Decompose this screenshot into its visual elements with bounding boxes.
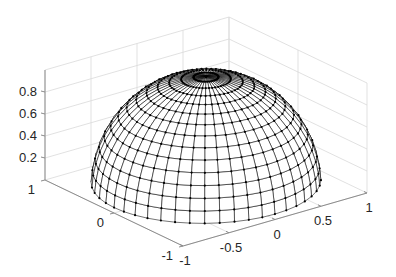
vertex-marker [163,95,165,97]
vertex-marker [169,121,171,123]
vertex-marker [304,200,306,202]
y-tick-label: 0 [97,215,104,230]
vertex-marker [249,92,251,94]
x-tick [318,205,321,207]
vertex-marker [316,156,318,158]
vertex-marker [185,84,187,86]
vertex-marker [293,152,295,154]
surface-cell [205,185,220,198]
vertex-marker [255,166,257,168]
vertex-marker [257,179,259,181]
vertex-marker [210,68,212,70]
vertex-marker [204,135,206,137]
vertex-marker [119,170,121,172]
surface-cell [219,197,234,211]
vertex-marker [232,183,234,185]
vertex-marker [300,119,302,121]
vertex-marker [113,134,115,136]
vertex-marker [214,135,216,137]
surface-cell [205,148,217,161]
vertex-marker [163,77,165,79]
vertex-marker [272,104,274,106]
z-tick [41,113,45,114]
vertex-marker [269,107,271,109]
surface-cell [192,160,205,173]
vertex-marker [134,214,136,216]
vertex-marker [150,100,152,102]
surface-cell [161,196,176,210]
vertex-marker [259,191,261,193]
vertex-marker [165,169,167,171]
vertex-marker [280,172,282,174]
vertex-marker [197,113,199,115]
vertex-marker [118,119,120,121]
hemisphere-3d-plot: 0.20.40.60.8-101-1-0.500.51 [0,0,396,277]
vertex-marker [147,205,149,207]
vertex-marker [156,129,158,131]
vertex-marker [174,133,176,135]
vertex-marker [265,110,267,112]
vertex-marker [219,69,221,71]
vertex-marker [145,86,147,88]
vertex-marker [99,151,101,153]
vertex-marker [224,69,226,71]
surface-cell [190,198,205,211]
vertex-marker [239,120,241,122]
vertex-marker [205,75,207,77]
vertex-marker [320,179,322,181]
surface-cell [193,148,206,161]
vertex-marker [247,76,249,78]
vertex-marker [101,156,103,158]
vertex-marker [222,84,224,86]
vertex-marker [106,145,108,147]
vertex-marker [281,130,283,132]
vertex-marker [297,164,299,166]
vertex-marker [243,96,245,98]
z-tick [41,157,45,158]
vertex-marker [166,97,168,99]
vertex-marker [218,197,220,199]
vertex-marker [234,110,236,112]
vertex-marker [247,94,249,96]
vertex-marker [187,85,189,87]
vertex-marker [219,222,221,224]
vertex-marker [239,98,241,100]
vertex-marker [303,159,305,161]
vertex-marker [157,86,159,88]
vertex-marker [227,92,229,94]
vertex-marker [105,202,107,204]
vertex-marker [94,192,96,194]
vertex-marker [260,113,262,115]
vertex-marker [297,114,299,116]
y-tick [41,180,45,181]
vertex-marker [274,101,276,103]
vertex-marker [204,147,206,149]
vertex-marker [181,146,183,148]
vertex-marker [170,99,172,101]
surface-cell [175,210,190,223]
vertex-marker [126,110,128,112]
vertex-marker [217,86,219,88]
surface-cell [205,104,213,114]
vertex-marker [151,141,153,143]
x-tick-label: -1 [179,253,191,268]
vertex-marker [144,111,146,113]
vertex-marker [196,68,198,70]
vertex-marker [136,121,138,123]
vertex-marker [246,194,248,196]
vertex-marker [257,80,259,82]
vertex-marker [297,132,299,134]
vertex-marker [272,188,274,190]
vertex-marker [213,123,215,125]
vertex-marker [129,146,131,148]
vertex-marker [128,114,130,116]
vertex-marker [260,126,262,128]
vertex-marker [253,129,255,131]
vertex-marker [160,219,162,221]
surface-cell [175,197,190,211]
surface-cell [180,147,193,160]
vertex-marker [201,87,203,89]
vertex-marker [157,88,159,90]
vertex-marker [270,88,272,90]
vertex-marker [201,68,203,70]
